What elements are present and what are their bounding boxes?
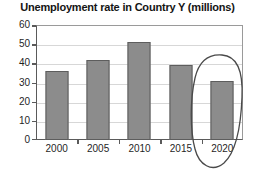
bar-2000[interactable] xyxy=(45,71,68,140)
x-tick-label-2020: 2020 xyxy=(211,143,233,154)
chart-title: Unemployment rate in Country Y (millions… xyxy=(0,1,255,13)
y-tick-label: 30 xyxy=(6,78,30,88)
y-axis: 60 50 40 30 20 10 0 xyxy=(0,25,30,140)
bars-layer xyxy=(36,25,243,140)
x-axis: 2000 2005 2010 2015 2020 xyxy=(36,143,243,161)
y-tick-label: 50 xyxy=(6,39,30,49)
x-tick-label-2015: 2015 xyxy=(170,143,192,154)
x-tick-label-2010: 2010 xyxy=(128,143,150,154)
bar-slot xyxy=(119,25,160,140)
y-tick-label: 60 xyxy=(6,20,30,30)
y-tick-label: 40 xyxy=(6,58,30,68)
bar-slot xyxy=(202,25,243,140)
y-tick-label: 0 xyxy=(6,135,30,145)
x-tick-label-2000: 2000 xyxy=(46,143,68,154)
x-tick-label-2005: 2005 xyxy=(87,143,109,154)
y-tick-label: 10 xyxy=(6,116,30,126)
bar-2010[interactable] xyxy=(128,42,151,140)
bar-2020[interactable] xyxy=(211,81,234,140)
y-tick-label: 20 xyxy=(6,97,30,107)
bar-2015[interactable] xyxy=(169,65,192,140)
bar-slot xyxy=(77,25,118,140)
bar-slot xyxy=(36,25,77,140)
bar-2005[interactable] xyxy=(87,60,110,141)
bar-slot xyxy=(160,25,201,140)
bar-chart: Unemployment rate in Country Y (millions… xyxy=(0,0,255,173)
